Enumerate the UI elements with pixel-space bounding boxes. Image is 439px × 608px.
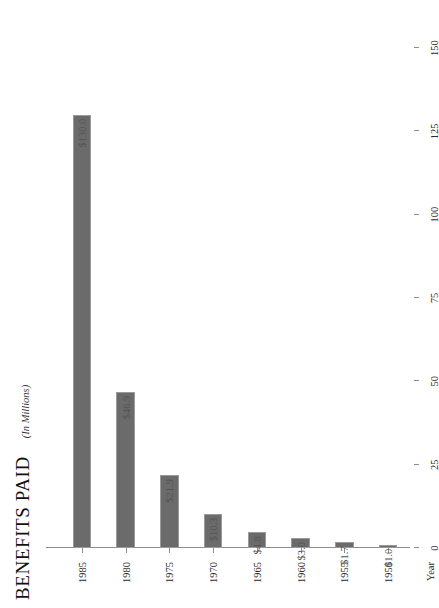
value-tick-label: 125 — [429, 123, 439, 139]
chart-page: BENEFITS PAID (In Millions) 025507510012… — [0, 0, 439, 608]
bar-value-label: $4.8 — [251, 532, 262, 554]
category-tick-label: 1955 — [339, 562, 350, 583]
category-tick-label: 1965 — [251, 562, 262, 583]
value-tick — [414, 214, 419, 215]
rotated-figure: BENEFITS PAID (In Millions) 025507510012… — [0, 0, 439, 608]
value-tick-label: 50 — [429, 376, 439, 387]
bar-value-label: $1.0 — [383, 545, 394, 567]
chart-subtitle: (In Millions) — [20, 385, 31, 438]
bar-value-label: $10.3 — [208, 514, 219, 542]
category-tick-label: 1960 — [295, 562, 306, 583]
bar-value-label: $3.0 — [295, 538, 306, 560]
category-tick-label: 1985 — [76, 562, 87, 583]
category-axis-title: Year — [425, 562, 436, 581]
bar[interactable] — [73, 115, 91, 548]
value-tick — [414, 47, 419, 48]
value-tick-label: 25 — [429, 459, 439, 470]
bar-value-label: $1.7 — [339, 542, 350, 564]
value-tick-label: 0 — [429, 545, 439, 550]
value-tick — [414, 130, 419, 131]
category-tick — [82, 548, 83, 553]
bar-value-label: $21.9 — [164, 475, 175, 503]
plot-area: 0255075100125150 19501955196019651970197… — [60, 48, 410, 548]
category-tick-label: 1980 — [120, 562, 131, 583]
category-tick — [169, 548, 170, 553]
bar-value-label: $46.9 — [120, 392, 131, 420]
category-tick — [213, 548, 214, 553]
value-tick-label: 100 — [429, 207, 439, 223]
value-axis-baseline — [46, 547, 410, 548]
category-tick-label: 1975 — [164, 562, 175, 583]
value-tick — [414, 380, 419, 381]
value-tick — [414, 547, 419, 548]
value-tick — [414, 464, 419, 465]
bar-value-label: $130.0 — [76, 115, 87, 148]
category-tick-label: 1970 — [208, 562, 219, 583]
category-tick — [126, 548, 127, 553]
value-tick-label: 150 — [429, 40, 439, 56]
title-block: BENEFITS PAID (In Millions) — [12, 385, 34, 600]
value-tick — [414, 297, 419, 298]
value-tick-label: 75 — [429, 293, 439, 304]
page-title: BENEFITS PAID — [12, 456, 34, 600]
